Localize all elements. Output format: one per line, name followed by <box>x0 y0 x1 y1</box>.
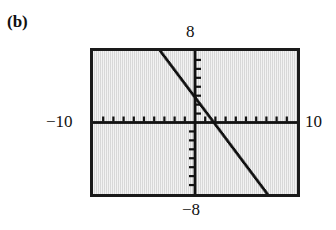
calculator-screen-frame <box>90 48 300 197</box>
y-max-label: 8 <box>186 22 195 41</box>
part-label: (b) <box>7 12 28 32</box>
graph-plot <box>93 51 297 194</box>
x-max-label: 10 <box>305 112 322 131</box>
plot-area <box>93 51 297 194</box>
x-min-label: −10 <box>46 112 73 131</box>
y-min-label: −8 <box>182 200 200 219</box>
y-axis <box>194 51 197 194</box>
figure-root: (b) 8 −10 10 −8 <box>0 0 336 230</box>
